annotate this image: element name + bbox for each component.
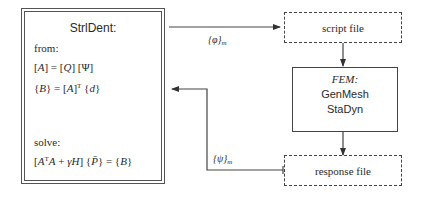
- fem-box: FEM: GenMesh StaDyn: [292, 67, 398, 132]
- strldent-title: StrlDent:: [25, 21, 161, 35]
- script-file-label: script file: [322, 22, 364, 34]
- solve-label: solve:: [34, 136, 60, 148]
- fem-item-stadyn: StaDyn: [293, 103, 397, 115]
- equation-b: {B} = [A]T {d}: [34, 82, 100, 94]
- strldent-box: StrlDent: from: [A] = [Q] [Ψ] {B} = [A]T…: [21, 8, 165, 184]
- psi-m-label: {ψ}m: [213, 153, 232, 166]
- response-file-label: response file: [315, 165, 371, 177]
- script-file-box: script file: [284, 12, 402, 43]
- fem-item-genmesh: GenMesh: [293, 88, 397, 100]
- equation-solve: [ATA + γH] {P̄} = {B}: [34, 155, 132, 167]
- phi-m-label: {φ}m: [208, 34, 227, 47]
- equation-a: [A] = [Q] [Ψ]: [34, 61, 93, 73]
- fem-label: FEM:: [293, 73, 397, 85]
- response-file-box: response file: [284, 155, 402, 186]
- from-label: from:: [34, 42, 58, 54]
